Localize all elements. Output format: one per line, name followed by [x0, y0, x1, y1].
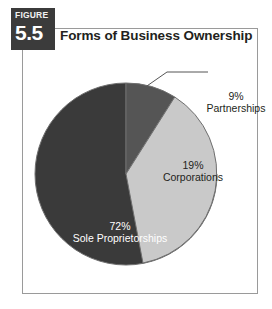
figure-badge: FIGURE 5.5 [11, 8, 55, 50]
pie-label-corporations-name: Corporations [150, 171, 236, 183]
pie-label-sole-proprietorships-percent: 72% [46, 220, 194, 232]
figure-badge-word: FIGURE [15, 11, 55, 20]
pie-label-corporations-percent: 19% [150, 159, 236, 171]
partnerships-leader-line [144, 72, 208, 88]
pie-chart: 9% Partnerships 19% Corporations 72% Sol… [22, 28, 258, 294]
figure-container: 9% Partnerships 19% Corporations 72% Sol… [0, 0, 272, 309]
pie-label-sole-proprietorships-name: Sole Proprietorships [46, 232, 194, 244]
pie-label-partnerships: 9% Partnerships [190, 90, 272, 114]
pie-label-corporations: 19% Corporations [150, 159, 236, 183]
figure-badge-number: 5.5 [15, 21, 55, 44]
pie-label-partnerships-name: Partnerships [190, 102, 272, 114]
pie-label-partnerships-percent: 9% [190, 90, 272, 102]
pie-label-sole-proprietorships: 72% Sole Proprietorships [46, 220, 194, 244]
figure-title: Forms of Business Ownership [60, 28, 252, 43]
